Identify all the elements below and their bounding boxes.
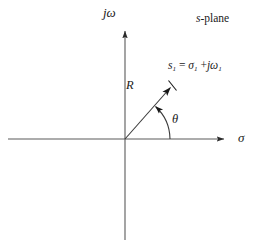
sigma-axis-label: σ — [238, 131, 244, 144]
jomega-axis-label: jω — [103, 6, 116, 19]
s-plane-label-suffix: -plane — [200, 12, 229, 24]
pole-symbol-subscript: 1 — [172, 65, 176, 73]
theta-arc — [156, 107, 171, 140]
angle-label: θ — [172, 113, 178, 126]
s-plane-label: s-plane — [196, 13, 229, 25]
imaginary-part-subscript: 1 — [218, 65, 222, 73]
equals-sign: = — [179, 59, 186, 71]
pole-equation-label: s1 = σ1 +jω1 — [168, 60, 222, 73]
real-part-subscript: 1 — [194, 65, 198, 73]
s-plane-diagram: jω σ s-plane s1 = σ1 +jω1 R θ — [0, 0, 260, 252]
magnitude-label: R — [126, 79, 134, 92]
diagram-canvas — [0, 0, 260, 252]
radius-vector-line — [125, 88, 171, 140]
